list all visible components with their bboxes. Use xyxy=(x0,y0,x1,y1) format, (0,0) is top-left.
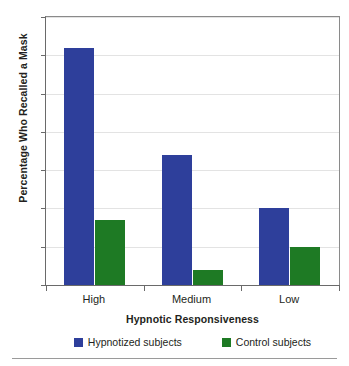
x-tick-label: High xyxy=(49,293,139,305)
y-tick-mark xyxy=(41,170,46,171)
legend-item: Control subjects xyxy=(222,336,311,348)
y-tick-mark xyxy=(41,17,46,18)
x-axis-title: Hypnotic Responsiveness xyxy=(45,313,340,325)
x-tick-mark xyxy=(241,285,242,291)
y-tick-mark xyxy=(41,94,46,95)
legend-swatch-icon xyxy=(222,338,231,347)
bar-group xyxy=(259,17,320,285)
bar-group xyxy=(64,17,125,285)
footer-divider xyxy=(12,358,337,359)
y-axis-title: Percentage Who Recalled a Mask xyxy=(17,0,29,248)
y-tick-mark xyxy=(41,55,46,56)
legend-label: Hypnotized subjects xyxy=(88,336,182,348)
bar xyxy=(95,220,125,285)
y-tick-mark xyxy=(41,247,46,248)
bar xyxy=(290,247,320,285)
y-tick-mark xyxy=(41,132,46,133)
legend-label: Control subjects xyxy=(236,336,311,348)
bar xyxy=(259,208,289,285)
x-tick-mark xyxy=(339,285,340,291)
x-tick-label: Medium xyxy=(147,293,237,305)
bar xyxy=(162,155,192,285)
bar-chart-figure: Percentage Who Recalled a Mask 010203040… xyxy=(0,0,349,366)
x-tick-mark xyxy=(144,285,145,291)
bar xyxy=(64,48,94,285)
y-tick-mark xyxy=(41,208,46,209)
chart-legend: Hypnotized subjectsControl subjects xyxy=(45,336,340,348)
plot-area: 010203040506070 xyxy=(45,16,340,286)
legend-item: Hypnotized subjects xyxy=(74,336,182,348)
x-tick-mark xyxy=(46,285,47,291)
bar-group xyxy=(162,17,223,285)
legend-swatch-icon xyxy=(74,338,83,347)
bar xyxy=(193,270,223,285)
x-tick-label: Low xyxy=(244,293,334,305)
